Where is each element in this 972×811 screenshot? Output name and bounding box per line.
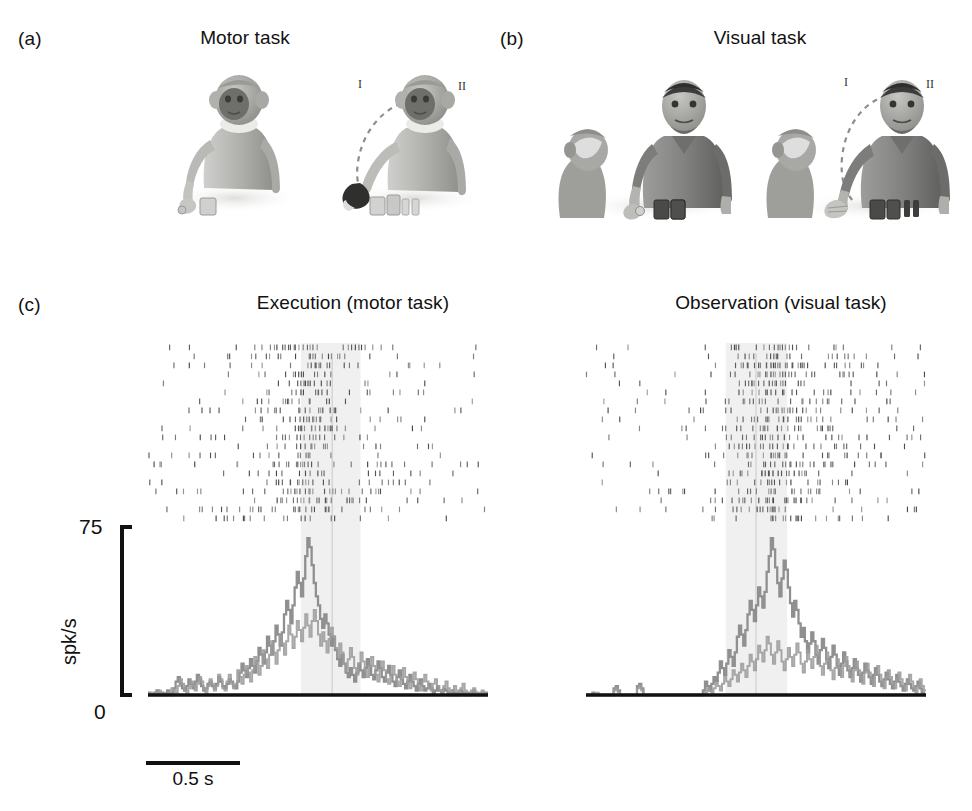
svg-text:I: I <box>358 77 362 91</box>
figure-root: (a) Motor task <box>0 0 972 811</box>
scene-monkey-grasping: I II <box>330 62 490 232</box>
scene-observe-human-grasping: I II <box>758 58 964 233</box>
panel-c-left-title: Execution (motor task) <box>203 292 503 314</box>
scalebar-line <box>146 761 240 765</box>
y-axis-max-label: 75 <box>79 515 102 539</box>
panel-a-letter: (a) <box>18 28 42 50</box>
y-axis-unit-label: spk/s <box>58 618 81 665</box>
svg-text:II: II <box>926 77 934 91</box>
panel-b-letter: (b) <box>500 28 524 50</box>
svg-text:II: II <box>458 79 466 93</box>
svg-text:I: I <box>844 75 848 89</box>
panel-c-right-title: Observation (visual task) <box>626 292 936 314</box>
observation-plot <box>548 335 928 730</box>
y-axis-min-label: 0 <box>94 700 106 724</box>
scene-monkey-reaching <box>160 62 310 232</box>
execution-plot <box>110 335 490 730</box>
panel-b-title: Visual task <box>620 27 900 49</box>
scalebar-label: 0.5 s <box>126 768 260 790</box>
panel-c-letter: (c) <box>18 294 41 316</box>
scene-observe-human-reaching <box>548 58 748 233</box>
panel-a-title: Motor task <box>100 27 390 49</box>
